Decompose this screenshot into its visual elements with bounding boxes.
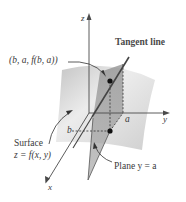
point-on-surface (107, 78, 112, 83)
plane-label: Plane y = a (114, 162, 157, 172)
surface-label: Surface (14, 139, 43, 149)
z-axis-label: z (81, 14, 85, 23)
b-tick-label: b (67, 126, 72, 136)
tangent-line-label: Tangent line (115, 38, 165, 48)
z-axis-arrow-icon (87, 13, 92, 20)
x-axis-label: x (48, 183, 52, 192)
partial-derivative-diagram: z y x (b, a, f(b, a)) Tangent line a b S… (0, 0, 186, 202)
a-tick-label: a (125, 115, 130, 125)
diagram-canvas (0, 0, 186, 202)
point-label: (b, a, f(b, a)) (9, 56, 58, 66)
point-on-xy-plane (107, 128, 112, 133)
surface-equation: z = f(x, y) (14, 151, 51, 161)
y-axis-label: y (163, 115, 167, 124)
